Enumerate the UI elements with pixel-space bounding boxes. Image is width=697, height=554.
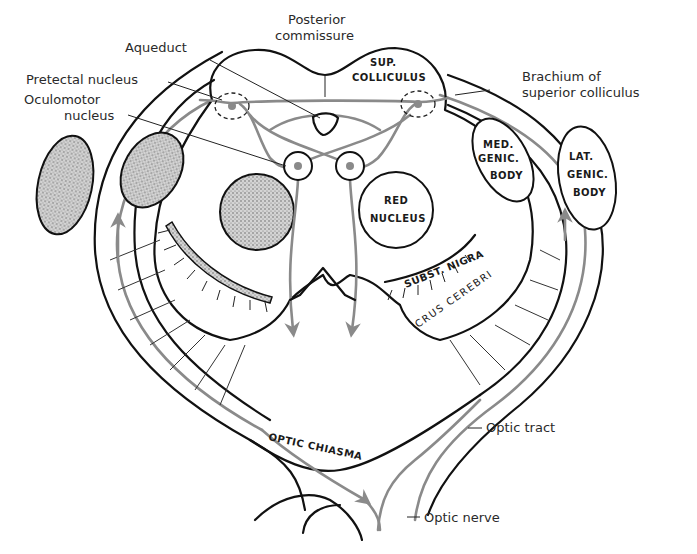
substantia-nigra-right: SUBST. NIGRA CRUS CEREBRI — [385, 235, 495, 330]
oculomotor-nucleus-right — [336, 152, 364, 180]
red-nucleus-left — [220, 174, 294, 250]
svg-text:COLLICULUS: COLLICULUS — [352, 72, 426, 83]
crus-hatching-left — [110, 240, 245, 405]
label-oculomotor-2: nucleus — [64, 108, 114, 123]
svg-text:GENIC.: GENIC. — [567, 169, 608, 180]
svg-text:BODY: BODY — [573, 187, 606, 198]
label-posterior-commissure-2: commissure — [275, 28, 354, 43]
red-nucleus-right: RED NUCLEUS — [359, 172, 433, 248]
label-posterior-commissure-1: Posterior — [288, 12, 346, 27]
label-optic-nerve: Optic nerve — [424, 510, 500, 525]
svg-text:RED: RED — [384, 195, 408, 206]
label-brachium-2: superior colliculus — [522, 85, 640, 100]
svg-text:LAT.: LAT. — [569, 151, 593, 162]
ventral-notch — [290, 268, 355, 300]
superior-colliculus: SUP. COLLICULUS — [352, 57, 426, 83]
oculomotor-nucleus-left — [284, 152, 312, 180]
svg-text:GENIC.: GENIC. — [478, 153, 519, 164]
label-optic-tract: Optic tract — [486, 420, 555, 435]
lat-genic-body-left — [28, 130, 102, 239]
label-brachium-1: Brachium of — [522, 69, 601, 84]
med-genic-body-left — [108, 121, 196, 218]
crus-hatching-right — [450, 250, 560, 385]
midbrain-diagram: MED. GENIC. BODY LAT. GENIC. BODY RED NU… — [0, 0, 697, 554]
svg-text:SUP.: SUP. — [370, 57, 397, 68]
svg-text:NUCLEUS: NUCLEUS — [370, 213, 426, 224]
label-aqueduct: Aqueduct — [125, 40, 187, 55]
svg-text:BODY: BODY — [490, 170, 523, 181]
pretectal-nucleus-right — [401, 91, 435, 117]
label-pretectal-nucleus: Pretectal nucleus — [26, 72, 138, 87]
label-oculomotor-1: Oculomotor — [24, 92, 101, 107]
svg-text:MED.: MED. — [483, 139, 514, 150]
